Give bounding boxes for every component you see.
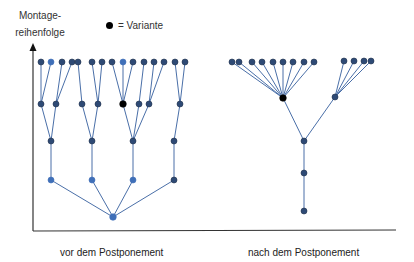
tree-diagram [0, 0, 414, 262]
variant-node-before [120, 101, 127, 108]
x-axis [33, 230, 396, 231]
panel-label-before: vor dem Postponement [60, 247, 163, 258]
axes [33, 50, 396, 231]
before-tree-edges [41, 62, 185, 217]
y-axis-arrow-icon [30, 43, 37, 51]
after-tree-edges [232, 61, 371, 211]
panel-label-after: nach dem Postponement [248, 247, 359, 258]
variant-node-after [280, 95, 287, 102]
before-tree-nodes [38, 59, 188, 220]
